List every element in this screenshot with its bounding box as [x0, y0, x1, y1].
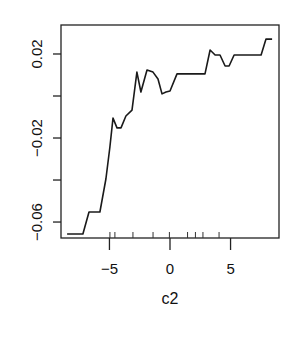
y-tick-label: −0.06: [28, 203, 45, 241]
data-line: [67, 39, 272, 234]
x-axis: −505: [101, 238, 235, 277]
x-tick-label: −5: [101, 260, 118, 277]
partial-dependence-plot: 0.02−0.02−0.06 −505 c2: [0, 0, 297, 344]
y-tick-label: 0.02: [28, 39, 45, 68]
y-tick-label: −0.02: [28, 119, 45, 157]
x-axis-title: c2: [162, 290, 179, 307]
rug-marks: [110, 232, 219, 238]
x-tick-label: 0: [166, 260, 174, 277]
plot-box: [61, 25, 279, 238]
y-axis: 0.02−0.02−0.06: [28, 39, 61, 241]
x-tick-label: 5: [226, 260, 234, 277]
